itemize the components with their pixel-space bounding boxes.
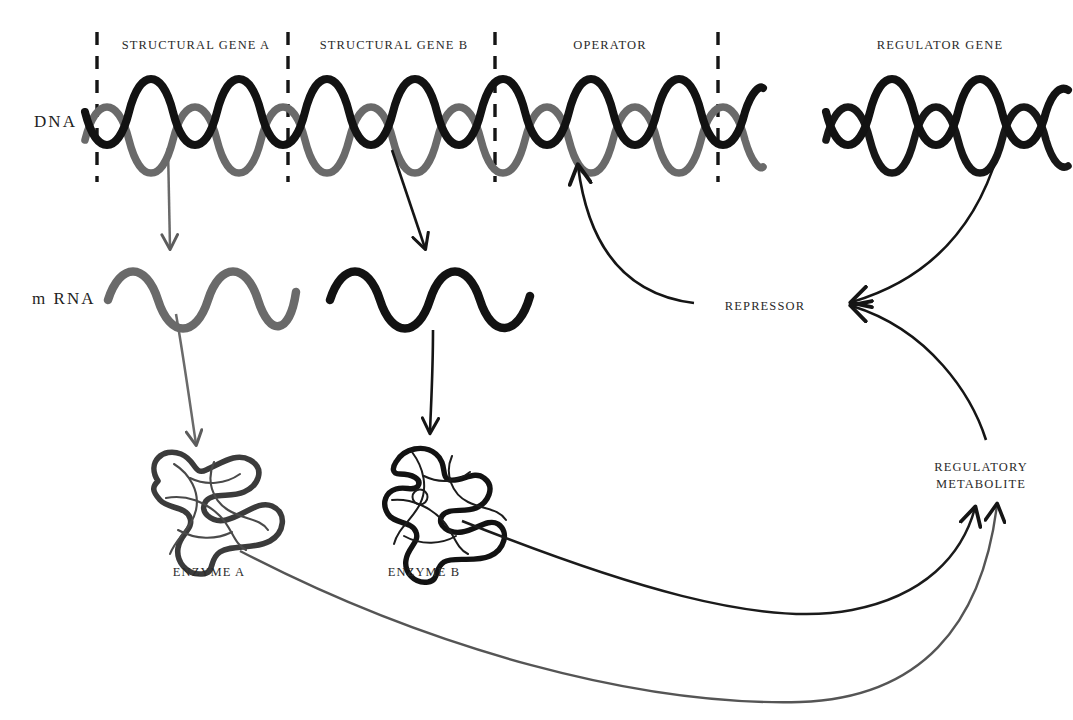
arrow-metabolite-to-repressor: [852, 306, 986, 440]
row-label-mrna: m RNA: [32, 289, 96, 309]
arrow-enzyme-b-to-metabolite: [462, 508, 975, 614]
arrow-translation-b: [430, 330, 433, 432]
arrow-transcription-a: [168, 148, 170, 248]
row-label-dna: DNA: [34, 112, 77, 132]
node-label-repressor: REPRESSOR: [725, 299, 805, 314]
mrna-a-wave: [108, 272, 296, 329]
dna-strand-operon: [85, 79, 763, 173]
regulatory-metabolite-line1: REGULATORY: [934, 459, 1028, 476]
regulatory-metabolite-line2: METABOLITE: [934, 476, 1028, 493]
segment-label-regulator-gene: REGULATOR GENE: [877, 38, 1003, 53]
node-label-enzyme-b: ENZYME B: [388, 565, 461, 580]
diagram-canvas: DNA m RNA STRUCTURAL GENE A STRUCTURAL G…: [0, 0, 1073, 720]
arrow-repressor-to-operator: [578, 166, 694, 303]
mrna-b-wave: [330, 272, 530, 329]
segment-label-operator: OPERATOR: [573, 38, 646, 53]
arrow-transcription-b: [392, 150, 425, 248]
diagram-artwork: [0, 0, 1073, 720]
node-label-regulatory-metabolite: REGULATORY METABOLITE: [934, 459, 1028, 492]
dna-strand-regulator-gene: [826, 79, 1068, 173]
segment-label-structural-gene-a: STRUCTURAL GENE A: [122, 38, 271, 53]
enzyme-b-shape: [385, 448, 506, 582]
arrow-enzyme-a-to-metabolite: [240, 505, 997, 702]
arrow-translation-a: [176, 314, 196, 444]
node-label-enzyme-a: ENZYME A: [173, 565, 246, 580]
segment-label-structural-gene-b: STRUCTURAL GENE B: [320, 38, 469, 53]
enzyme-a-shape: [154, 452, 283, 574]
